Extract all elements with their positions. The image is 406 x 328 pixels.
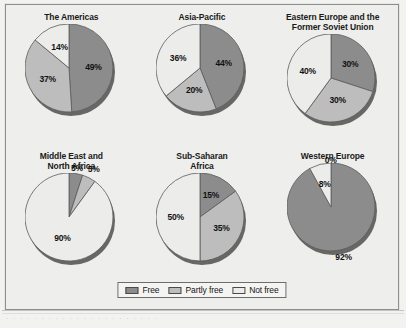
pie-panel: Sub-Saharan Africa15%35%50%	[137, 144, 268, 283]
pie-slice-label: 14%	[51, 42, 67, 52]
legend-entry: Partly free	[169, 285, 224, 295]
pie-slice-label: 0%	[325, 155, 337, 165]
pie-slice-label: 35%	[213, 223, 229, 233]
caption-rule-top	[2, 310, 404, 311]
legend-entry: Not free	[232, 285, 278, 295]
legend-entry: Free	[125, 285, 159, 295]
chart-legend: FreePartly freeNot free	[117, 282, 286, 298]
pie-slice-label: 50%	[168, 212, 184, 222]
pie-chart: 5%5%90%	[25, 173, 117, 265]
pie-slice-label: 15%	[203, 190, 219, 200]
caption-strip: · · · · · · · · · · · · · · · · · · · · …	[0, 310, 406, 328]
legend-label: Not free	[249, 285, 278, 295]
caption-text: · · · · · · · · · · · · · · · · · · · · …	[6, 315, 158, 322]
pie-panel-title: The Americas	[44, 12, 98, 22]
pie-slice-label: 90%	[54, 233, 70, 243]
pie-slice-label: 36%	[170, 53, 186, 63]
pie-chart-grid: The Americas49%37%14%Asia-Pacific44%20%3…	[6, 5, 398, 283]
pie-slice-label: 44%	[216, 58, 232, 68]
pie-slice-label: 5%	[88, 164, 100, 174]
pie-slice-label: 20%	[186, 85, 202, 95]
pie-slice-label: 30%	[330, 95, 346, 105]
scanned-page-background: The Americas49%37%14%Asia-Pacific44%20%3…	[0, 0, 406, 328]
pie-slice-not-free	[25, 173, 113, 261]
legend-swatch-icon	[232, 287, 245, 294]
pie-chart: 15%35%50%	[156, 173, 248, 265]
pie-chart: 44%20%36%	[156, 24, 248, 116]
pie-chart: 30%30%40%	[287, 34, 379, 126]
pie-slice-label: 30%	[342, 59, 358, 69]
pie-panel-title: Asia-Pacific	[178, 12, 225, 22]
pie-panel: Asia-Pacific44%20%36%	[137, 5, 268, 144]
pie-slice-label: 49%	[85, 62, 101, 72]
pie-panel: Western Europe92%0%8%	[267, 144, 398, 283]
legend-swatch-icon	[169, 287, 182, 294]
pie-slice-label: 37%	[40, 74, 56, 84]
figure-frame: The Americas49%37%14%Asia-Pacific44%20%3…	[5, 4, 399, 310]
pie-slice-label: 8%	[319, 179, 331, 189]
pie-panel-title: Eastern Europe and the Former Soviet Uni…	[286, 12, 379, 32]
caption-rule-bottom	[2, 313, 404, 314]
pie-slices	[25, 24, 117, 116]
pie-slices	[156, 24, 248, 116]
pie-panel: The Americas49%37%14%	[6, 5, 137, 144]
pie-slices	[287, 163, 379, 255]
pie-chart: 49%37%14%	[25, 24, 117, 116]
pie-slices	[287, 34, 379, 126]
pie-panel: Middle East and North Africa5%5%90%	[6, 144, 137, 283]
legend-swatch-icon	[125, 287, 138, 294]
legend-label: Partly free	[186, 285, 224, 295]
pie-slice-label: 5%	[71, 163, 83, 173]
legend-label: Free	[142, 285, 159, 295]
pie-slice-label: 40%	[299, 66, 315, 76]
pie-panel: Eastern Europe and the Former Soviet Uni…	[267, 5, 398, 144]
pie-slice-label: 92%	[335, 252, 351, 262]
pie-chart: 92%0%8%	[287, 163, 379, 255]
pie-panel-title: Sub-Saharan Africa	[176, 151, 227, 171]
pie-slices	[25, 173, 117, 265]
